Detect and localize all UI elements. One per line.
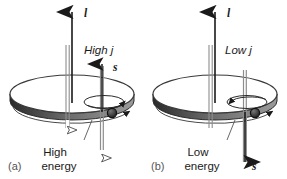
panel-caption-a: (a) [8,160,21,172]
spin-orbit-diagram: l High j s High energy (a) [0,0,287,179]
particle-dot-a [107,108,116,117]
label-high-energy-line1-a: High [43,146,67,158]
label-low-energy-line1-b: Low [187,146,209,158]
label-low-energy-line2-b: energy [184,160,219,172]
particle-dot-b [250,108,259,117]
label-l-a: l [84,7,88,19]
label-l-b: l [227,7,231,19]
panel-a: l High j s High energy (a) [8,7,134,172]
spin-arrow-b [244,112,247,162]
label-s-a: s [112,61,118,73]
label-low-j-b: Low j [225,44,252,56]
spin-arrow-a [101,64,104,158]
label-high-energy-line2-a: energy [41,160,76,172]
label-high-j-a: High j [84,44,114,56]
label-s-b: s [251,160,257,172]
panel-b: l Low j s Low energy (b) [151,7,277,172]
figure-root: l High j s High energy (a) [0,0,287,179]
panel-caption-b: (b) [151,160,164,172]
